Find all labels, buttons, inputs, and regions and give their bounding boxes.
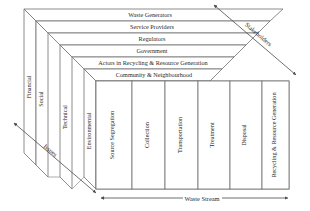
top-row-0[interactable]: Waste Generators bbox=[24, 9, 283, 21]
front-panel-5-label: Recycling & Resource Generation bbox=[270, 92, 277, 177]
cube-diagram: Waste Generators Service Providers Regul… bbox=[0, 0, 310, 211]
left-panel-1[interactable]: Social bbox=[36, 21, 48, 177]
front-face: Source Segregation Collection Transporta… bbox=[96, 81, 289, 189]
top-row-2-label: Regulators bbox=[139, 35, 166, 42]
left-panel-0[interactable]: Financial bbox=[24, 9, 36, 165]
front-panel-2[interactable]: Transportation bbox=[165, 81, 198, 189]
front-panel-3[interactable]: Treatment bbox=[198, 81, 230, 189]
top-row-2[interactable]: Regulators bbox=[48, 33, 258, 45]
front-panel-0-label: Source Segregation bbox=[108, 111, 115, 159]
front-panel-1-label: Collection bbox=[143, 122, 150, 148]
top-row-3[interactable]: Government bbox=[60, 45, 246, 57]
left-panel-0-label: Financial bbox=[25, 75, 32, 98]
left-panel-3[interactable]: Environmental bbox=[84, 69, 96, 189]
front-panel-4[interactable]: Disposal bbox=[230, 81, 262, 189]
diagram-canvas: Waste Generators Service Providers Regul… bbox=[0, 0, 310, 211]
top-row-5-label: Community & Neighbourhood bbox=[116, 71, 193, 78]
top-row-0-label: Waste Generators bbox=[128, 11, 172, 18]
waste-stream-axis-label: Waste Stream bbox=[184, 195, 219, 202]
front-panel-4-label: Disposal bbox=[240, 124, 247, 146]
waste-stream-axis: Waste Stream bbox=[101, 195, 288, 202]
front-panel-2-label: Transportation bbox=[176, 117, 183, 153]
front-panel-5[interactable]: Recycling & Resource Generation bbox=[262, 81, 289, 189]
top-row-3-label: Government bbox=[137, 47, 168, 54]
front-panel-3-label: Treatment bbox=[208, 122, 215, 147]
left-panel-1-label: Social bbox=[37, 91, 44, 107]
top-row-4[interactable]: Actors in Recycling & Resource Generatio… bbox=[72, 57, 234, 69]
left-panel-3-label: Environmental bbox=[85, 112, 92, 149]
top-row-1-label: Service Providers bbox=[130, 23, 174, 30]
front-panel-1[interactable]: Collection bbox=[132, 81, 165, 189]
left-panel-2-label: Technical bbox=[61, 105, 68, 129]
top-row-4-label: Actors in Recycling & Resource Generatio… bbox=[98, 59, 207, 66]
top-row-5[interactable]: Community & Neighbourhood bbox=[84, 69, 222, 81]
front-panel-0[interactable]: Source Segregation bbox=[96, 81, 132, 189]
